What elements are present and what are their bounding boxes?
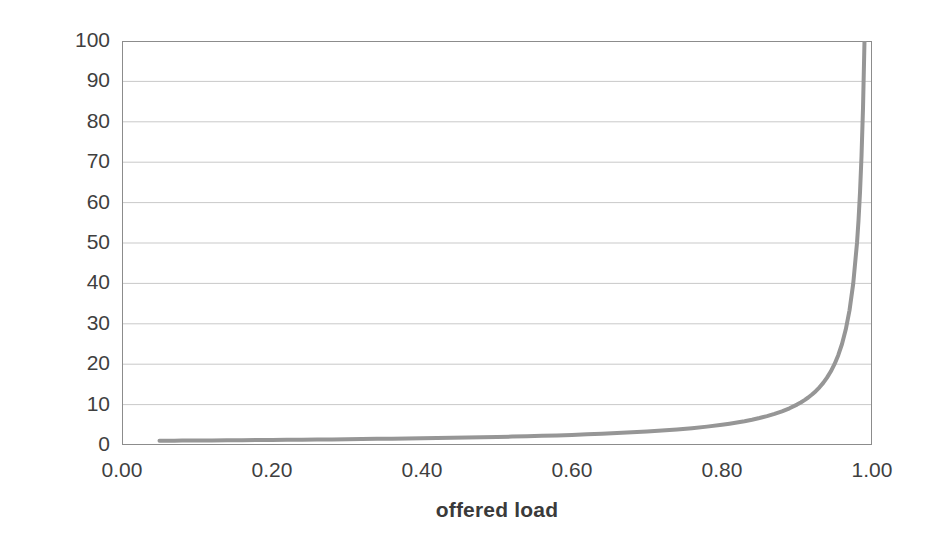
x-tick-label: 0.20 xyxy=(252,458,293,482)
y-tick-label: 10 xyxy=(58,392,110,416)
y-tick-label: 40 xyxy=(58,270,110,294)
y-tick-label: 100 xyxy=(58,28,110,52)
y-tick-label: 30 xyxy=(58,311,110,335)
latency-curve xyxy=(160,41,865,441)
plot-svg xyxy=(122,41,872,445)
y-tick-label: 90 xyxy=(58,68,110,92)
y-tick-label: 80 xyxy=(58,109,110,133)
x-axis-title: offered load xyxy=(122,498,872,522)
plot-area xyxy=(122,41,872,445)
y-tick-label: 70 xyxy=(58,149,110,173)
y-tick-label: 20 xyxy=(58,351,110,375)
y-tick-label: 0 xyxy=(58,432,110,456)
y-tick-label: 60 xyxy=(58,190,110,214)
x-tick-label: 0.00 xyxy=(102,458,143,482)
x-axis-tick-labels: 0.000.200.400.600.801.00 xyxy=(0,458,933,488)
x-tick-label: 1.00 xyxy=(852,458,893,482)
gridlines xyxy=(122,81,872,404)
x-tick-label: 0.40 xyxy=(402,458,443,482)
latency-vs-offered-load-chart: latency 0102030405060708090100 0.000.200… xyxy=(0,0,933,544)
y-tick-label: 50 xyxy=(58,230,110,254)
x-tick-label: 0.80 xyxy=(702,458,743,482)
x-tick-label: 0.60 xyxy=(552,458,593,482)
